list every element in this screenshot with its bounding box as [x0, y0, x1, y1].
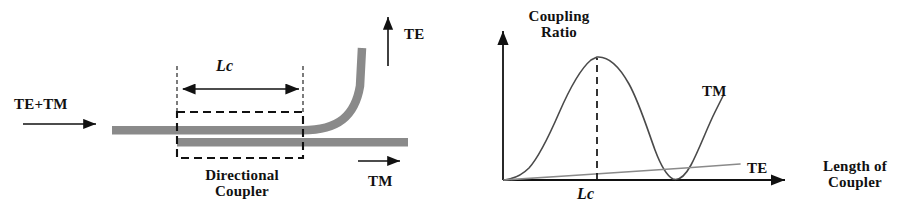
coupling-length-label: Lc [216, 57, 233, 74]
x-tick-label-lc: Lc [577, 185, 594, 202]
tm-series-label: TM [702, 83, 727, 99]
directional-coupler-label: Directional Coupler [180, 167, 304, 199]
x-axis-label-line1: Length of [805, 158, 905, 174]
directional-coupler-label-line2: Coupler [180, 183, 304, 199]
directional-coupler-schematic: TE+TM Lc Directional Coupler TE TM [0, 0, 455, 224]
input-label: TE+TM [14, 96, 68, 112]
directional-coupler-label-line1: Directional [180, 167, 304, 183]
y-axis-label: Coupling Ratio [505, 8, 613, 40]
te-curve [504, 164, 740, 180]
x-axis-label-line2: Coupler [805, 174, 905, 190]
coupler-region-outline [177, 112, 303, 158]
coupling-ratio-plot: Coupling Ratio Lc TM TE Length of Couple… [455, 0, 905, 224]
y-axis-label-line2: Ratio [505, 24, 613, 40]
x-axis-label: Length of Coupler [805, 158, 905, 190]
tm-curve [504, 57, 723, 180]
tm-output-label: TM [368, 173, 393, 189]
te-output-label: TE [404, 26, 424, 42]
figure-container: TE+TM Lc Directional Coupler TE TM [0, 0, 905, 224]
y-axis-label-line1: Coupling [505, 8, 613, 24]
through-waveguide-bar [177, 138, 408, 147]
te-series-label: TE [747, 160, 767, 176]
